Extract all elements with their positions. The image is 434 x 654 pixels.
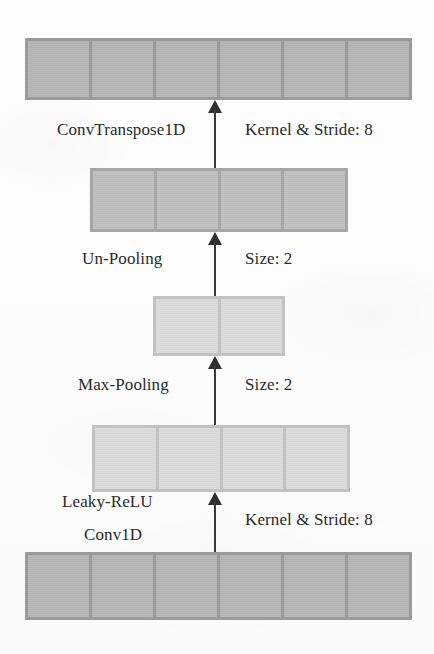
leaky-relu-label: Leaky-ReLU: [62, 492, 153, 512]
unpooled-tensor-bar: [90, 168, 348, 232]
max-pooling-param-label: Size: 2: [245, 375, 292, 395]
conv-transpose-1d-param-label: Kernel & Stride: 8: [245, 120, 373, 140]
tensor-cell: [28, 555, 92, 617]
tensor-cell: [156, 41, 220, 97]
output-tensor-bar: [25, 38, 412, 100]
tensor-cell: [95, 428, 159, 489]
tensor-cell: [223, 428, 287, 489]
pooled-tensor-bar: [153, 296, 285, 356]
diagram-canvas: ConvTranspose1D Kernel & Stride: 8 Un-Po…: [0, 0, 434, 654]
conv-1d-param-label: Kernel & Stride: 8: [245, 510, 373, 530]
tensor-cell: [93, 171, 157, 229]
tensor-cell: [156, 299, 221, 353]
tensor-cell: [92, 555, 156, 617]
activated-tensor-bar: [92, 425, 350, 492]
tensor-cell: [348, 555, 409, 617]
tensor-cell: [221, 171, 285, 229]
max-pooling-op-label: Max-Pooling: [78, 375, 169, 395]
conv-1d-op-label: Conv1D: [84, 525, 142, 545]
tensor-cell: [156, 555, 220, 617]
tensor-cell: [157, 171, 221, 229]
tensor-cell: [284, 171, 345, 229]
input-tensor-bar: [25, 552, 412, 620]
tensor-cell: [28, 41, 92, 97]
tensor-cell: [220, 41, 284, 97]
un-pooling-op-label: Un-Pooling: [82, 249, 162, 269]
tensor-cell: [220, 555, 284, 617]
conv-transpose-1d-op-label: ConvTranspose1D: [57, 120, 185, 140]
un-pooling-param-label: Size: 2: [245, 249, 292, 269]
tensor-cell: [159, 428, 223, 489]
tensor-cell: [284, 41, 348, 97]
tensor-cell: [348, 41, 409, 97]
tensor-cell: [284, 555, 348, 617]
tensor-cell: [286, 428, 347, 489]
tensor-cell: [92, 41, 156, 97]
tensor-cell: [221, 299, 283, 353]
